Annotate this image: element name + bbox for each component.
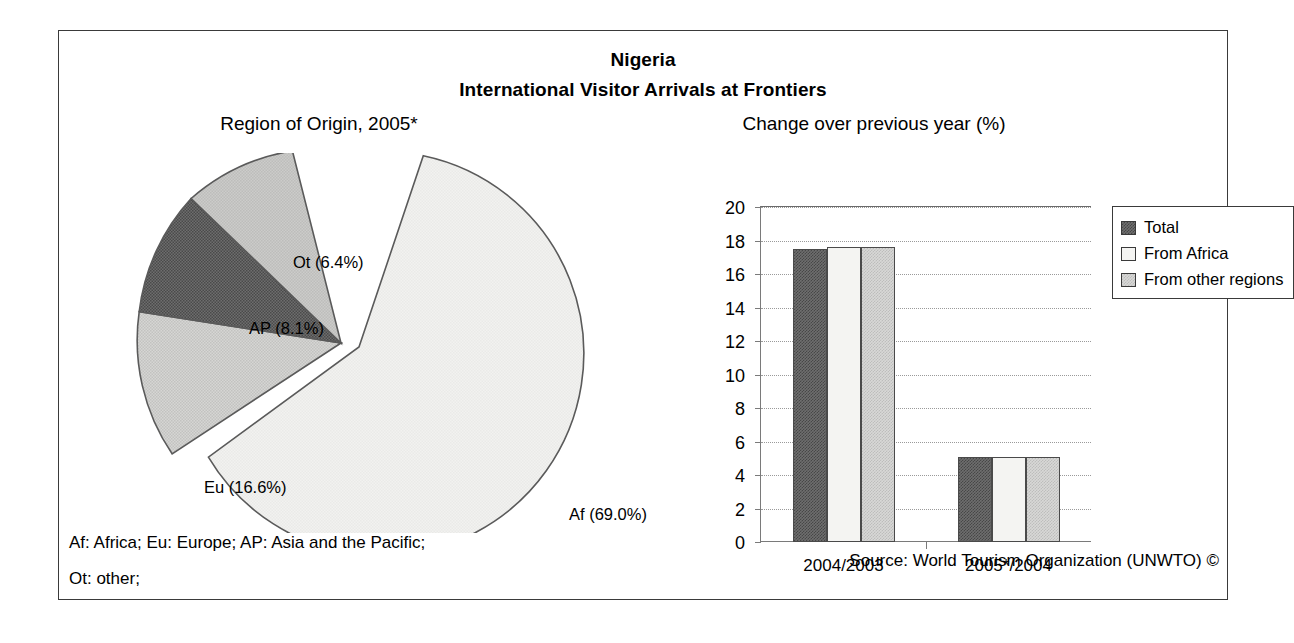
y-axis-tick-label: 12	[725, 332, 745, 353]
bar-group	[793, 207, 895, 542]
figure-frame: Nigeria International Visitor Arrivals a…	[58, 30, 1228, 600]
page-title: Nigeria	[59, 49, 1227, 71]
y-axis-tick: 6	[755, 442, 761, 443]
y-axis-tick-label: 0	[735, 533, 745, 554]
y-axis-tick-label: 6	[735, 432, 745, 453]
y-axis-tick-label: 2	[735, 499, 745, 520]
y-axis-tick: 20	[755, 207, 761, 208]
pie-label-eu: Eu (16.6%)	[204, 478, 287, 497]
y-axis-tick: 0	[755, 542, 761, 543]
pie-label-ap: AP (8.1%)	[249, 319, 324, 338]
legend-label-from-other-regions: From other regions	[1144, 270, 1283, 289]
y-axis-tick-label: 10	[725, 365, 745, 386]
y-axis-tick-label: 20	[725, 198, 745, 219]
pie-chart-graphic: Ot (6.4%) AP (8.1%) Eu (16.6%) Af (69.0%…	[129, 153, 589, 533]
y-axis-tick-label: 14	[725, 298, 745, 319]
bar	[1026, 457, 1060, 542]
pie-chart-panel: Region of Origin, 2005*	[59, 113, 649, 533]
y-axis-tick-label: 18	[725, 231, 745, 252]
footnote-abbreviations-line2: Ot: other;	[69, 569, 140, 589]
source-attribution: Source: World Tourism Organization (UNWT…	[849, 551, 1219, 571]
legend-swatch-total	[1121, 221, 1136, 235]
pie-chart-title: Region of Origin, 2005*	[59, 113, 579, 135]
y-axis-tick: 4	[755, 475, 761, 476]
legend-item-from-africa: From Africa	[1121, 244, 1283, 263]
y-axis-tick-label: 4	[735, 466, 745, 487]
bar	[992, 457, 1026, 542]
pie-label-ot: Ot (6.4%)	[293, 253, 364, 272]
pie-svg	[129, 153, 589, 533]
bar	[793, 249, 827, 542]
bar-chart-plot-area: 02468101214161820 2004/20032005*/2004	[760, 206, 1091, 542]
legend-item-from-other-regions: From other regions	[1121, 270, 1283, 289]
y-axis-tick: 8	[755, 408, 761, 409]
y-axis-tick: 18	[755, 241, 761, 242]
chart-legend: Total From Africa From other regions	[1112, 206, 1294, 299]
legend-label-total: Total	[1144, 218, 1179, 237]
legend-item-total: Total	[1121, 218, 1283, 237]
page-subtitle: International Visitor Arrivals at Fronti…	[59, 79, 1227, 101]
legend-label-from-africa: From Africa	[1144, 244, 1228, 263]
y-axis-tick: 2	[755, 509, 761, 510]
y-axis-tick: 16	[755, 274, 761, 275]
bar	[827, 247, 861, 542]
y-axis-tick: 12	[755, 341, 761, 342]
bar	[861, 247, 895, 542]
y-axis-tick-label: 16	[725, 265, 745, 286]
bar-group	[958, 207, 1060, 542]
y-axis-tick: 10	[755, 375, 761, 376]
legend-swatch-from-africa	[1121, 247, 1136, 261]
bar-chart-panel: Change over previous year (%) 0246810121…	[619, 113, 1229, 573]
footnote-abbreviations-line1: Af: Africa; Eu: Europe; AP: Asia and the…	[69, 533, 425, 553]
x-axis-tick	[926, 542, 927, 549]
y-axis-tick-label: 8	[735, 399, 745, 420]
legend-swatch-from-other-regions	[1121, 273, 1136, 287]
bar-chart-title: Change over previous year (%)	[659, 113, 1089, 135]
y-axis-tick: 14	[755, 308, 761, 309]
bar	[958, 457, 992, 542]
